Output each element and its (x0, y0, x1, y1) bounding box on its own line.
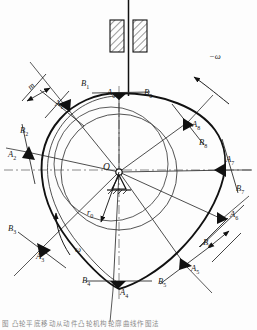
m-right-ext-2 (212, 233, 241, 262)
label-A3: A3 (36, 252, 44, 263)
flat-face-0 (92, 92, 150, 93)
ray-3 (41, 172, 119, 249)
label-B6: B6 (203, 238, 211, 249)
bearing-block-right (133, 20, 147, 52)
figure-caption: 图 凸轮平底移动从动件凸轮机构轮廓曲线作图法 (2, 318, 255, 328)
label-B2: B2 (20, 126, 28, 137)
omega-label: ω (75, 245, 81, 254)
label-B3: B3 (8, 224, 16, 235)
contact-marker-7 (214, 163, 226, 177)
label-B7: B7 (236, 184, 244, 195)
ray-8 (119, 122, 188, 172)
label-B5: B5 (158, 277, 166, 288)
ray-6 (119, 172, 222, 219)
extended-construction-lines (6, 62, 252, 322)
negative-omega-label: −ω (209, 52, 221, 61)
label-B1: B1 (81, 79, 89, 90)
label-A0: A0 (107, 88, 115, 99)
base-radius-label: r0 (87, 208, 93, 219)
label-A8: A8 (192, 120, 200, 131)
negative-omega-arc-arrow (194, 77, 229, 104)
label-B0: B0 (144, 88, 152, 99)
label-A7: A7 (226, 155, 234, 166)
label-A1: A1 (55, 99, 63, 110)
label-A5: A5 (191, 264, 199, 275)
base-radius-arrow (101, 172, 119, 222)
label-A4: A4 (120, 288, 128, 299)
bearing-block-left (110, 20, 124, 52)
label-B4: B4 (82, 276, 90, 287)
center-label-O: O (103, 163, 110, 173)
label-A6: A6 (230, 210, 238, 221)
label-B8: B8 (199, 138, 207, 149)
follower-flat-faces (18, 90, 244, 284)
figure-canvas: O r0 ω −ω m A0 A1 A2 A3 A4 A5 A6 A7 A8 B… (0, 0, 257, 330)
centerlines (4, 86, 253, 300)
label-A2: A2 (8, 150, 16, 161)
cam-diagram-svg (0, 0, 257, 330)
